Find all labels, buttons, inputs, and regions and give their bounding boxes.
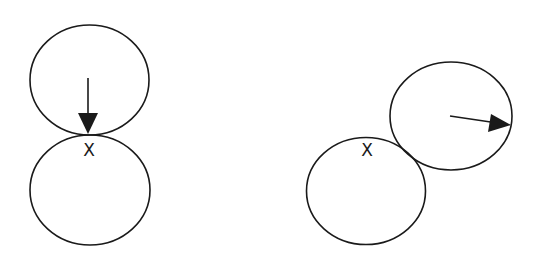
right-arrow-shaft bbox=[450, 116, 494, 123]
left-contact-marker: X bbox=[83, 140, 95, 160]
right-diagram: X bbox=[307, 62, 513, 245]
right-arrow-head-icon bbox=[488, 114, 511, 132]
diagram-canvas: X X bbox=[0, 0, 538, 266]
right-contact-marker: X bbox=[361, 140, 373, 160]
left-diagram: X bbox=[30, 25, 150, 245]
left-arrow-head-icon bbox=[78, 113, 98, 134]
